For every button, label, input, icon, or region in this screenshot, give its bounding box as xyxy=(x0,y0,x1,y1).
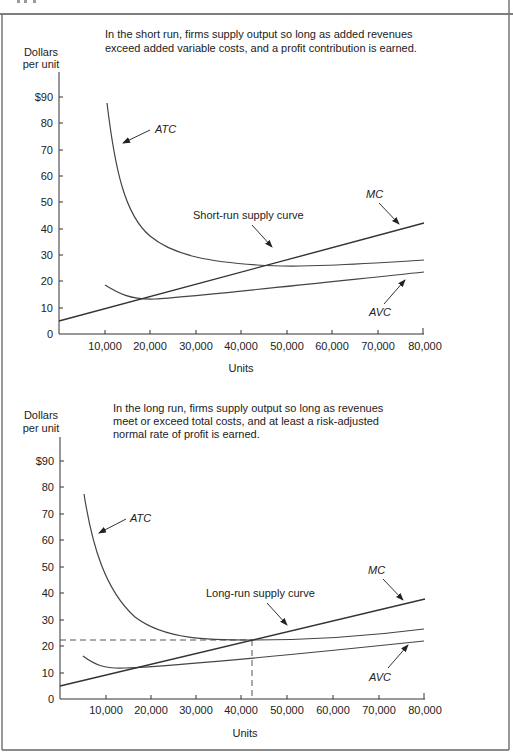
svg-text:$90: $90 xyxy=(36,455,54,467)
mc-arrow xyxy=(379,203,399,224)
svg-text:0: 0 xyxy=(48,693,54,705)
svg-text:80,000: 80,000 xyxy=(408,340,442,352)
y-axis-label: Dollars xyxy=(24,409,59,421)
svg-text:50,000: 50,000 xyxy=(270,704,304,716)
svg-text:20,000: 20,000 xyxy=(133,340,167,352)
avc-curve xyxy=(105,272,424,299)
figure: In the short run, firms supply output so… xyxy=(0,0,513,755)
mc-label: MC xyxy=(368,564,385,576)
svg-text:40: 40 xyxy=(42,587,54,599)
svg-text:40,000: 40,000 xyxy=(224,340,258,352)
y-axis-label: Dollars xyxy=(24,46,59,58)
y-axis-label: per unit xyxy=(23,58,60,70)
caption-line: In the short run, firms supply output so… xyxy=(105,28,413,40)
caption-line: exceed added variable costs, and a profi… xyxy=(105,42,417,54)
avc-arrow xyxy=(388,645,408,668)
caption-line: normal rate of profit is earned. xyxy=(113,428,260,440)
svg-text:20,000: 20,000 xyxy=(134,704,168,716)
svg-text:30,000: 30,000 xyxy=(179,340,213,352)
supply-curve-arrow xyxy=(267,603,287,625)
y-axis-label: per unit xyxy=(23,422,60,434)
svg-text:50: 50 xyxy=(42,561,54,573)
avc-arrow xyxy=(384,280,405,304)
svg-text:60: 60 xyxy=(42,534,54,546)
svg-text:70: 70 xyxy=(41,144,53,156)
caption-line: In the long run, firms supply output so … xyxy=(113,402,384,414)
supply-curve-arrow xyxy=(252,225,272,247)
svg-text:10,000: 10,000 xyxy=(89,704,123,716)
supply-curve-label: Long-run supply curve xyxy=(206,587,315,599)
x-axis-label: Units xyxy=(232,727,258,739)
svg-text:30: 30 xyxy=(41,249,53,261)
svg-text:0: 0 xyxy=(47,328,53,340)
atc-label: ATC xyxy=(129,512,151,524)
svg-text:20: 20 xyxy=(41,275,53,287)
avc-label: AVC xyxy=(368,306,391,318)
mc-arrow xyxy=(383,579,403,600)
atc-arrow xyxy=(99,519,126,533)
mc-label: MC xyxy=(366,188,383,200)
svg-text:60,000: 60,000 xyxy=(315,340,349,352)
supply-curve-label: Short-run supply curve xyxy=(193,209,304,221)
atc-label: ATC xyxy=(154,123,176,135)
svg-text:10: 10 xyxy=(42,667,54,679)
chart-short-run: In the short run, firms supply output so… xyxy=(23,28,442,374)
svg-text:80: 80 xyxy=(42,481,54,493)
svg-text:80: 80 xyxy=(41,117,53,129)
x-ticks: 10,000 20,000 30,000 40,000 50,000 60,00… xyxy=(89,693,442,716)
svg-text:80,000: 80,000 xyxy=(408,704,442,716)
svg-text:$90: $90 xyxy=(35,91,53,103)
svg-text:10: 10 xyxy=(41,302,53,314)
header-fragment xyxy=(17,0,36,3)
atc-arrow xyxy=(123,130,150,143)
svg-text:30,000: 30,000 xyxy=(179,704,213,716)
svg-text:70: 70 xyxy=(42,508,54,520)
x-axis-label: Units xyxy=(228,362,254,374)
svg-text:60: 60 xyxy=(41,170,53,182)
svg-text:30: 30 xyxy=(42,614,54,626)
svg-text:50: 50 xyxy=(41,196,53,208)
avc-curve xyxy=(83,641,424,668)
caption-line: meet or exceed total costs, and at least… xyxy=(113,415,379,427)
x-ticks: 10,000 20,000 30,000 40,000 50,000 60,00… xyxy=(88,328,442,352)
chart-long-run: In the long run, firms supply output so … xyxy=(23,402,442,739)
svg-text:70,000: 70,000 xyxy=(361,340,395,352)
svg-text:50,000: 50,000 xyxy=(270,340,304,352)
svg-text:20: 20 xyxy=(42,640,54,652)
svg-text:10,000: 10,000 xyxy=(88,340,122,352)
svg-text:40,000: 40,000 xyxy=(224,704,258,716)
avc-label: AVC xyxy=(368,671,391,683)
svg-text:70,000: 70,000 xyxy=(362,704,396,716)
svg-text:40: 40 xyxy=(41,223,53,235)
svg-text:60,000: 60,000 xyxy=(316,704,350,716)
